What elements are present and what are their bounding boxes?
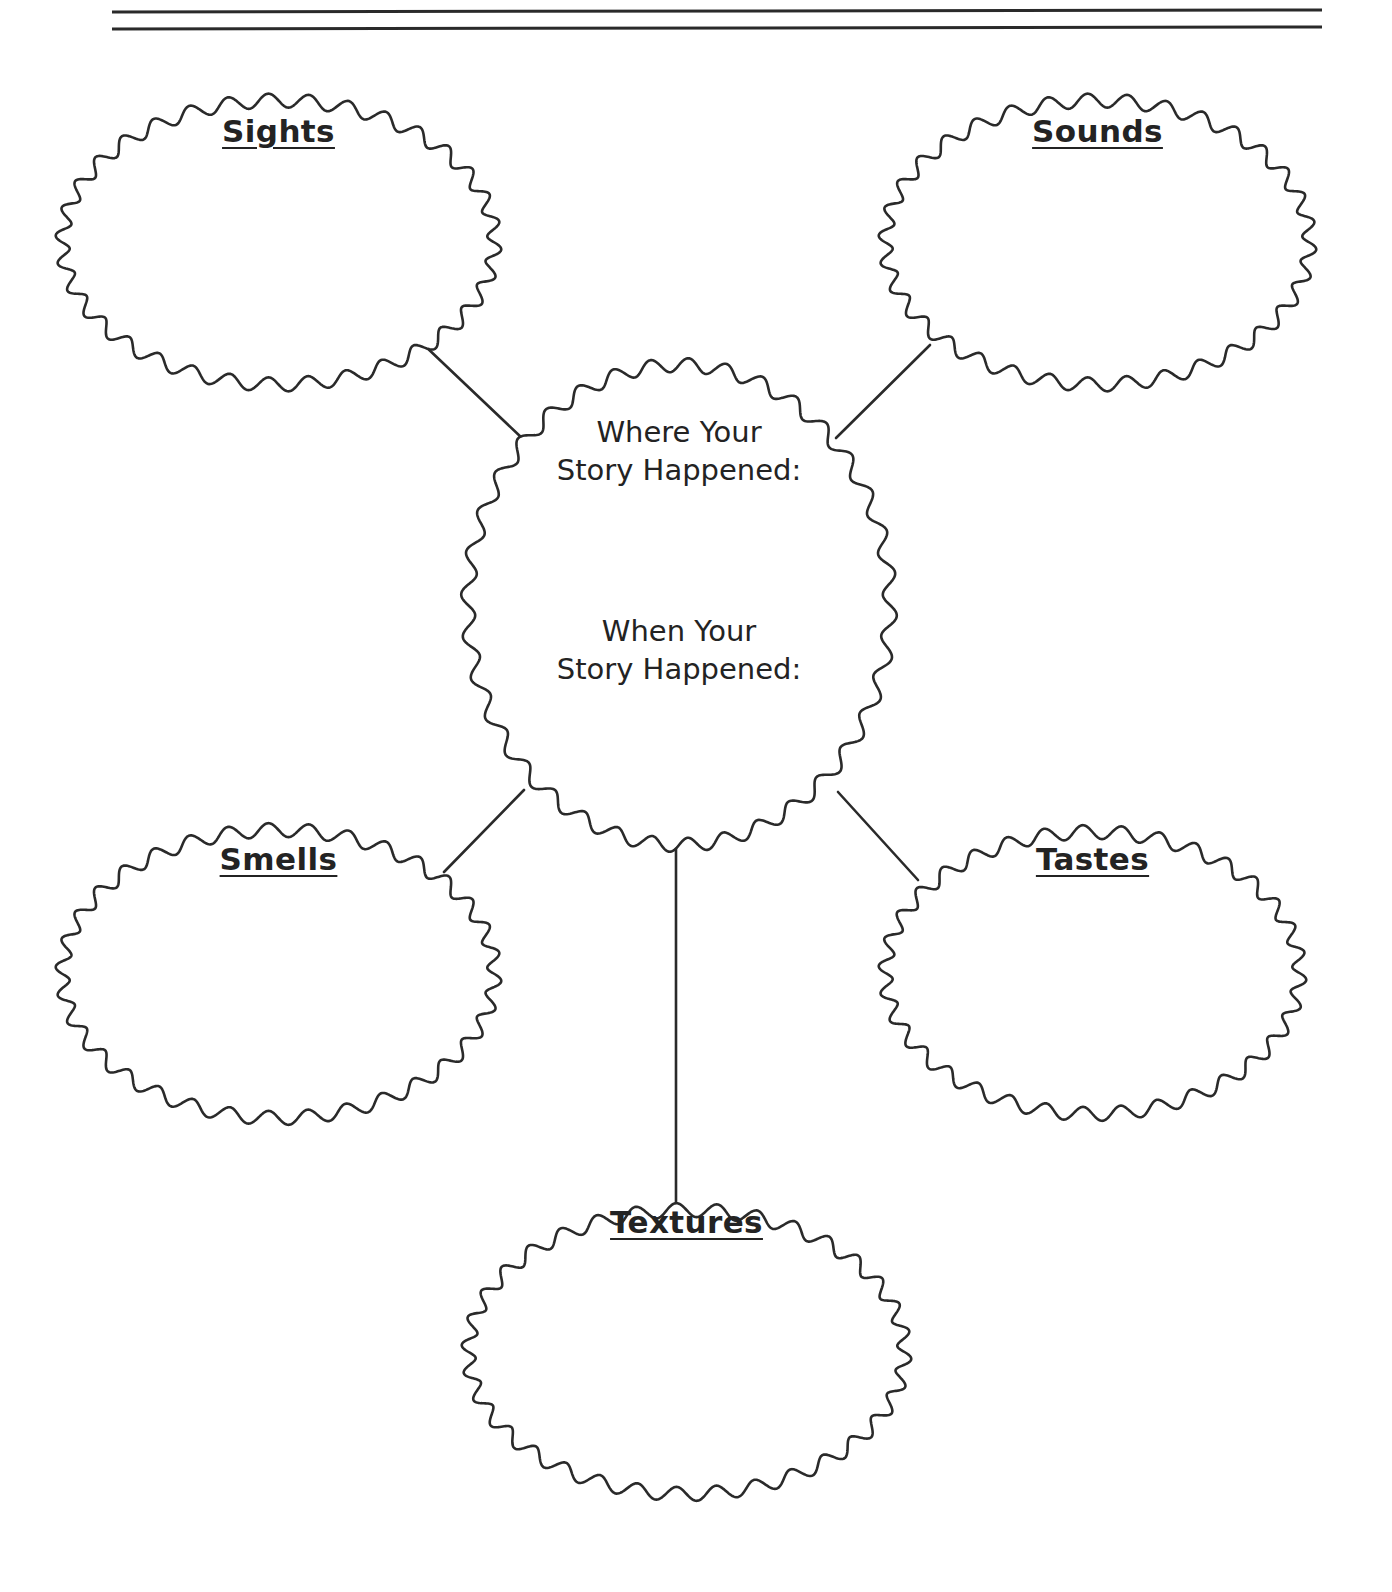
bubble-outline-sights bbox=[56, 94, 501, 392]
organizer-canvas bbox=[0, 0, 1392, 1592]
wavy-bubble-outlines bbox=[56, 94, 1316, 1501]
connector-center-to-sights bbox=[424, 345, 522, 438]
worksheet-page: Sights Sounds Smells Tastes Textures Whe… bbox=[0, 0, 1392, 1592]
bubble-outline-tastes bbox=[879, 825, 1307, 1121]
bubble-outline-sounds bbox=[879, 94, 1316, 392]
bubble-outline-smells bbox=[56, 823, 501, 1125]
connector-center-to-sounds bbox=[836, 345, 930, 438]
connector-center-to-smells bbox=[444, 790, 524, 872]
connector-center-to-tastes bbox=[838, 792, 918, 880]
header-double-rule bbox=[112, 10, 1322, 29]
bubble-outline-center bbox=[461, 358, 897, 852]
bubble-outline-textures bbox=[462, 1203, 911, 1501]
